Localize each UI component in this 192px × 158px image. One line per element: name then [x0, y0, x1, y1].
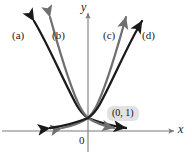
point-callout-0-1: (0, 1): [107, 106, 139, 121]
origin-label: 0: [79, 134, 85, 146]
y-axis-label: y: [81, 0, 86, 15]
exponential-functions-figure: (a) (b) (c) (d) y x 0 (0, 1): [0, 0, 192, 158]
curve-label-c: (c): [103, 29, 115, 41]
plot-canvas: [0, 0, 192, 158]
curve-label-a: (a): [12, 29, 24, 41]
x-axis-label: x: [178, 122, 183, 137]
curve-label-b: (b): [52, 29, 65, 41]
curve-label-d: (d): [142, 29, 155, 41]
